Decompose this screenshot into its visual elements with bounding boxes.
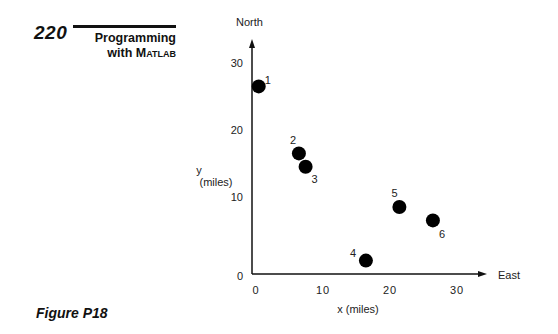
y-tick-label: 20 [231, 124, 243, 136]
data-point: 2 [290, 134, 306, 160]
point-marker-icon [252, 79, 266, 93]
y-direction-label: North [236, 16, 263, 28]
point-marker-icon [392, 200, 406, 214]
y-axis-label-unit: (miles) [200, 176, 233, 188]
data-point: 5 [391, 187, 406, 214]
point-label: 1 [265, 74, 271, 86]
point-marker-icon [359, 254, 373, 268]
axes [249, 39, 487, 277]
x-tick-label: 20 [383, 284, 397, 296]
x-axis-arrow-icon [478, 271, 487, 277]
x-tick-label: 30 [450, 284, 464, 296]
point-label: 4 [350, 247, 356, 259]
y-tick-label: 10 [231, 191, 243, 203]
y-axis-arrow-icon [249, 39, 255, 48]
point-label: 6 [439, 228, 445, 240]
x-axis-label: x (miles) [337, 303, 379, 315]
data-point: 3 [299, 160, 318, 185]
point-label: 2 [290, 134, 296, 146]
y-axis-label-var: y [196, 164, 202, 176]
y-tick-label: 0 [237, 270, 243, 282]
point-marker-icon [426, 213, 440, 227]
data-point: 1 [252, 74, 271, 93]
x-tick-label: 0 [252, 284, 259, 296]
data-points: 123456 [252, 74, 445, 267]
x-tick-label: 10 [316, 284, 330, 296]
scatter-chart: 01020300102030 123456 North East y (mile… [0, 0, 558, 334]
figure-caption: Figure P18 [36, 305, 108, 321]
data-point: 4 [350, 247, 373, 268]
point-marker-icon [292, 146, 306, 160]
point-label: 3 [312, 173, 318, 185]
point-label: 5 [391, 187, 397, 199]
point-marker-icon [299, 160, 313, 174]
x-direction-label: East [498, 269, 520, 281]
data-point: 6 [426, 213, 445, 240]
tick-labels: 01020300102030 [231, 57, 464, 296]
y-tick-label: 30 [231, 57, 243, 69]
